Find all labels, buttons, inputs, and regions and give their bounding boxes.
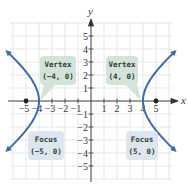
callout-focus-left: Focus (−5, 0) [28,131,64,160]
callout-vertex-left-title: Vertex [44,60,72,69]
callout-focus-right-title: Focus [131,135,154,144]
callout-vertex-right: Vertex (4, 0) [106,56,138,85]
y-tick-label: 5 [83,31,88,42]
callout-vertex-right-title: Vertex [108,60,136,69]
y-tick-label: 1 [83,83,88,94]
x-tick-label: 1 [102,103,107,114]
callout-focus-left-coords: (−5, 0) [30,147,62,156]
y-tick-label: −1 [77,109,88,120]
x-tick-label: 3 [128,103,133,114]
y-axis-arrow-icon [89,19,94,26]
x-axis-label: x [180,94,186,106]
callout-focus-right-coords: (5, 0) [128,147,155,156]
hyperbola-diagram: x y −5−4−3−2−11234554321−1−2−3−4−5 Verte… [0,0,188,190]
x-tick-label: 2 [115,103,120,114]
focus-right-point [154,99,159,104]
x-tick-label: 5 [154,103,159,114]
callout-vertex-left: Vertex (−4, 0) [40,56,76,85]
x-tick-label: −2 [58,103,69,114]
callout-vertex-right-coords: (4, 0) [108,72,135,81]
y-axis-label: y [87,5,93,17]
y-tick-label: 3 [83,57,88,68]
focus-left-point [24,99,29,104]
y-tick-label: −5 [77,161,88,172]
y-tick-label: −2 [77,122,88,133]
x-tick-label: −5 [19,103,30,114]
y-tick-label: −4 [77,148,88,159]
callout-focus-left-title: Focus [35,135,58,144]
y-tick-label: −3 [77,135,88,146]
callout-focus-right: Focus (5, 0) [126,131,158,160]
callout-pointers [40,84,141,101]
y-tick-label: 4 [83,44,88,55]
x-tick-label: −3 [45,103,56,114]
x-axis-arrow-icon [171,99,178,104]
y-tick-label: 2 [83,70,88,81]
callout-vertex-left-coords: (−4, 0) [42,72,74,81]
